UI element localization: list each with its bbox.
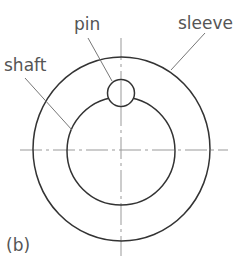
sleeve-shaft-pin-diagram: pin sleeve shaft (b) — [0, 0, 243, 267]
sleeve-label: sleeve — [178, 13, 233, 33]
pin-label: pin — [74, 14, 100, 34]
pin-leader-line — [88, 38, 112, 81]
shaft-leader-line — [25, 78, 72, 130]
sleeve-leader-line — [171, 33, 205, 70]
shaft-label: shaft — [4, 55, 47, 75]
panel-label: (b) — [6, 235, 30, 255]
